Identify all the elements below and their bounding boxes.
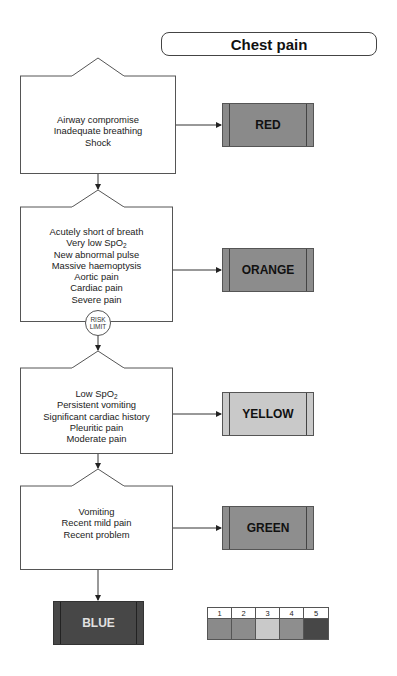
- decision-box-yellow: Low SpO2 Persistent vomiting Significant…: [20, 368, 173, 454]
- criterion: Cardiac pain: [21, 282, 172, 293]
- criteria-list: Airway compromise Inadequate breathing S…: [21, 114, 175, 148]
- legend-swatch-blue: [304, 619, 328, 639]
- criteria-list: Vomiting Recent mild pain Recent problem: [21, 506, 172, 540]
- criterion: Aortic pain: [21, 271, 172, 282]
- risk-limit-marker: RISK LIMIT: [85, 310, 111, 336]
- criterion: Recent mild pain: [21, 517, 172, 528]
- legend-number: 5: [304, 608, 328, 619]
- text-part: SpO: [104, 237, 123, 248]
- criterion: Acutely short of breath: [21, 226, 172, 237]
- legend-swatch-green: [280, 619, 304, 639]
- priority-label: BLUE: [82, 616, 115, 630]
- legend-number: 1: [208, 608, 232, 619]
- box-edge: [306, 249, 313, 291]
- priority-label: ORANGE: [242, 263, 295, 277]
- decision-box-orange: Acutely short of breath Very low SpO2 Ne…: [20, 207, 173, 322]
- priority-red: RED: [222, 103, 314, 147]
- priority-label: RED: [255, 118, 280, 132]
- priority-blue: BLUE: [53, 601, 144, 645]
- criterion: Shock: [21, 137, 175, 148]
- box-edge: [223, 104, 230, 146]
- decision-box-red: Airway compromise Inadequate breathing S…: [20, 76, 176, 174]
- criteria-list: Low SpO2 Persistent vomiting Significant…: [21, 388, 172, 444]
- box-edge: [306, 104, 313, 146]
- box-edge: [306, 393, 313, 435]
- criterion: Vomiting: [21, 506, 172, 517]
- box-edge: [306, 507, 313, 549]
- text-part: Very low: [66, 237, 104, 248]
- criterion: Very low SpO2: [21, 237, 172, 248]
- decision-box-green: Vomiting Recent mild pain Recent problem: [20, 486, 173, 570]
- criterion: Persistent vomiting: [21, 399, 172, 410]
- legend-swatch-yellow: [256, 619, 280, 639]
- priority-orange: ORANGE: [222, 248, 314, 292]
- box-edge: [223, 507, 230, 549]
- legend-swatch-orange: [232, 619, 256, 639]
- criterion: Inadequate breathing: [21, 125, 175, 136]
- legend-number: 3: [256, 608, 280, 619]
- priority-yellow: YELLOW: [222, 392, 314, 436]
- text-part: Low: [75, 388, 95, 399]
- priority-green: GREEN: [222, 506, 314, 550]
- criterion: New abnormal pulse: [21, 249, 172, 260]
- criterion: Moderate pain: [21, 433, 172, 444]
- priority-label: GREEN: [247, 521, 290, 535]
- legend-swatch-red: [208, 619, 232, 639]
- box-edge: [223, 393, 230, 435]
- criterion: Recent problem: [21, 529, 172, 540]
- criterion: Airway compromise: [21, 114, 175, 125]
- criterion: Massive haemoptysis: [21, 260, 172, 271]
- criteria-list: Acutely short of breath Very low SpO2 Ne…: [21, 226, 172, 305]
- text-part: SpO: [95, 388, 114, 399]
- criterion: Severe pain: [21, 294, 172, 305]
- criterion: Pleuritic pain: [21, 422, 172, 433]
- box-edge: [136, 602, 143, 644]
- chart-title: Chest pain: [161, 32, 377, 56]
- criterion: Significant cardiac history: [21, 411, 172, 422]
- criterion: Low SpO2: [21, 388, 172, 399]
- legend-number: 4: [280, 608, 304, 619]
- box-edge: [223, 249, 230, 291]
- legend-number: 2: [232, 608, 256, 619]
- box-edge: [54, 602, 61, 644]
- risk-label: LIMIT: [90, 323, 107, 330]
- priority-label: YELLOW: [242, 407, 293, 421]
- priority-legend: 1 2 3 4 5: [207, 607, 329, 640]
- risk-label: RISK: [90, 316, 105, 323]
